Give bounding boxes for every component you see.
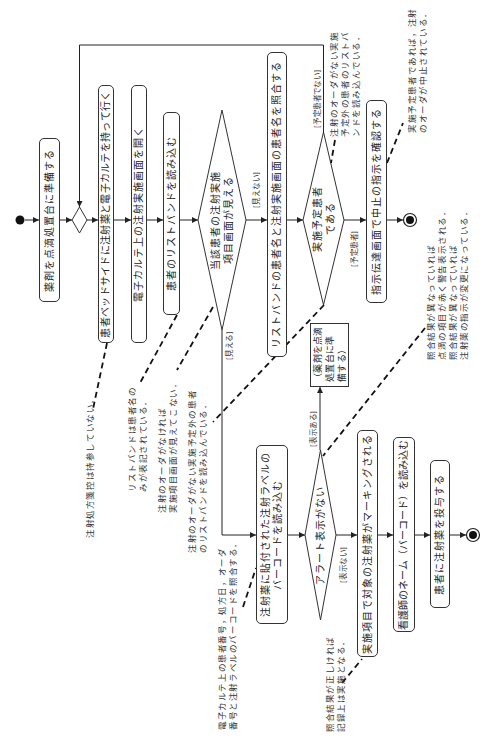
action-go-bedside: 患者ベッドサイドに注射薬と電子カルテを持って行く: [98, 85, 114, 343]
note-line: 注射処方箋控は持参していない．: [85, 394, 96, 538]
action-label: リストバンドの患者名と注射実施画面の患者名を照合する: [271, 61, 283, 348]
action-administer: 患者に注射薬を投与する: [430, 460, 450, 608]
note-line: 実施予定患者であれば，注射: [407, 8, 418, 133]
note-unscheduled-wristband-lower: 注射のオーダがない実施予定外の患者 のリストバンドを読み込んでいる．: [187, 390, 209, 553]
guard-not-visible: [見えない]: [252, 172, 261, 208]
action-label: 指示伝達画面で中止の指示を確認する: [371, 108, 383, 295]
final-node-icon: [404, 214, 417, 227]
action-label: 患者に注射薬を投与する: [434, 474, 446, 595]
note-line: 予定外の患者のリストバ: [340, 31, 351, 137]
action-scan-nurse-name: 看護師のネーム（バーコード）を読み込む: [393, 437, 415, 632]
note-line: リストバンドは患者名の: [127, 386, 138, 492]
action-label-line: 注射薬に貼付された注射ラベルの: [260, 452, 272, 617]
action-label-line: バーコードを読み込む: [272, 480, 284, 590]
note-line: 記録上は実施となる．: [336, 636, 347, 732]
note-line: 注射薬の指示が変更になっている．: [459, 206, 470, 360]
initial-node-icon: [16, 216, 25, 225]
note-line: 照合結果が異なっていれば: [426, 206, 437, 360]
action-label: 電子カルテ上の注射実施画面を開く: [133, 126, 145, 302]
note-no-prescription-copy: 注射処方箋控は持参していない．: [85, 394, 96, 538]
action-label-line: 処置台に準: [324, 336, 336, 383]
note-line: 注射のオーダがない実施: [329, 31, 340, 137]
note-mismatch-alert: 照合結果が異なっていれば 点滴の項目が赤く警告表示される． 照合結果が異なってい…: [426, 206, 470, 360]
note-unscheduled-wristband-upper: 注射のオーダがない実施 予定外の患者のリストバ ンドを読み込んでいる．: [329, 31, 362, 137]
note-anchor-dashed-line: [243, 568, 256, 607]
note-anchor-dashed-line: [331, 140, 335, 163]
action-marking: 実施項目で対象の注射薬がマーキングされる: [357, 430, 378, 657]
action-label-line: （薬剤を点滴: [312, 326, 324, 382]
action-prepare-drug: 薬剤を点滴処置台に準備する: [39, 138, 60, 302]
action-confirm-cancel-instruction: 指示伝達画面で中止の指示を確認する: [366, 100, 387, 303]
action-label: 患者のリストバンドを読み込む: [166, 136, 178, 291]
action-scan-wristband: 患者のリストバンドを読み込む: [163, 112, 180, 315]
note-barcode-check: 電子カルテ上の患者番号，処方日，オーダ 番号と注射ラベルのバーコードを照合する．: [217, 538, 239, 730]
action-label: 看護師のネーム（バーコード）を読み込む: [398, 440, 410, 630]
note-order-cancelled: 実施予定患者であれば，注射 のオーダが中止されている．: [407, 8, 429, 133]
guard-not-scheduled: [予定患者でない]: [313, 70, 322, 128]
activity-diagram-canvas: 薬剤を点滴処置台に準備する 患者ベッドサイドに注射薬と電子カルテを持って行く 電…: [0, 0, 490, 741]
note-anchor-dashed-line: [387, 123, 403, 163]
note-line: みが表記されている．: [138, 386, 149, 492]
note-line: 電子カルテ上の患者番号，処方日，オーダ: [217, 538, 228, 730]
note-line: 照合結果が正しければ: [325, 636, 336, 732]
guard-scheduled: [予定患者]: [350, 231, 359, 267]
action-label: 薬剤を点滴処置台に準備する: [44, 149, 56, 292]
note-line: のリストバンドを読み込んでいる．: [198, 390, 209, 553]
note-record-done: 照合結果が正しければ 記録上は実施となる．: [325, 636, 347, 732]
note-wristband-name-only: リストバンドは患者名の みが表記されている．: [127, 386, 149, 492]
guard-alert-not-shown: [表示ない]: [339, 547, 348, 583]
decision-diamond-scheduled-patient: [303, 132, 344, 305]
guard-visible: [見える]: [225, 331, 234, 360]
action-return-to-prepare: （薬剤を点滴 処置台に準 備する）: [310, 323, 349, 387]
note-line: 番号と注射ラベルのバーコードを照合する．: [228, 538, 239, 730]
action-open-injection-screen: 電子カルテ上の注射実施画面を開く: [131, 85, 147, 343]
note-line: 点滴の項目が赤く警告表示される．: [437, 206, 448, 360]
decision-diamond-no-alert: [305, 450, 336, 620]
note-line: 照合結果が異なっていれば: [448, 206, 459, 360]
action-scan-injection-label: 注射薬に貼付された注射ラベルの バーコードを読み込む: [256, 445, 288, 624]
final-node-icon: [467, 529, 480, 542]
note-anchor-dashed-line: [177, 307, 213, 370]
decision-diamond-item-screen-visible: [198, 110, 246, 330]
action-label: 患者ベッドサイドに注射薬と電子カルテを持って行く: [100, 90, 112, 337]
note-line: ンドを読み込んでいる．: [351, 31, 362, 137]
action-compare-patient-names: リストバンドの患者名と注射実施画面の患者名を照合する: [267, 52, 287, 357]
note-line: のオーダが中止されている．: [418, 8, 429, 133]
action-label: 実施項目で対象の注射薬がマーキングされる: [362, 434, 374, 654]
merge-node-diamond: [72, 207, 87, 233]
note-line: 注射のオーダがない実施予定外の患者: [187, 390, 198, 553]
flow-arrow-visible: [222, 330, 256, 535]
note-line: 実施項目画面が見えてこない．: [168, 379, 179, 513]
guard-alert-shown: [表示ある]: [309, 411, 318, 447]
action-label-line: 備する）: [336, 345, 348, 382]
note-line: 注射のオーダがなければ: [157, 379, 168, 513]
note-no-order-no-screen: 注射のオーダがなければ 実施項目画面が見えてこない．: [157, 379, 179, 513]
